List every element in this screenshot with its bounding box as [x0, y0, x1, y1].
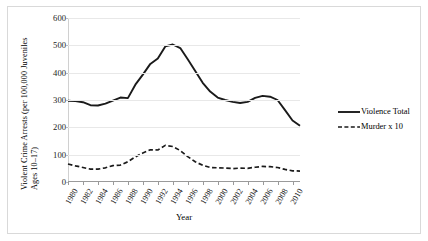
- x-tick-label: 2002: [228, 187, 244, 206]
- x-tick-label: 1980: [64, 187, 80, 206]
- x-tick-label: 2000: [213, 187, 229, 206]
- x-tick-mark: [278, 182, 279, 185]
- x-tick-label: 1992: [153, 187, 169, 206]
- x-tick-label: 1982: [79, 187, 95, 206]
- x-tick-label: 1998: [198, 187, 214, 206]
- legend-item[interactable]: Murder x 10: [338, 119, 424, 134]
- y-tick-label: 0: [36, 177, 66, 187]
- x-tick-mark: [173, 182, 174, 185]
- gridline: [68, 155, 300, 156]
- x-tick-mark: [83, 182, 84, 185]
- y-tick-label: 600: [36, 13, 66, 23]
- x-tick-label: 1988: [123, 187, 139, 206]
- chart-figure: Violent Crime Arrests (per 100,000 Juven…: [0, 0, 428, 241]
- x-tick-label: 1990: [138, 187, 154, 206]
- x-tick-label: 1994: [168, 187, 184, 206]
- y-axis-ticks: 0100200300400500600: [34, 18, 66, 182]
- x-tick-label: 2006: [258, 187, 274, 206]
- y-tick-label: 300: [36, 95, 66, 105]
- x-tick-mark: [203, 182, 204, 185]
- x-tick-mark: [113, 182, 114, 185]
- dashed-line-icon: [338, 122, 360, 132]
- legend-label: Violence Total: [361, 107, 410, 116]
- x-tick-mark: [248, 182, 249, 185]
- y-tick-label: 200: [36, 122, 66, 132]
- x-tick-label: 2004: [243, 187, 259, 206]
- x-tick-mark: [143, 182, 144, 185]
- x-tick-mark: [233, 182, 234, 185]
- series-line: [68, 45, 300, 126]
- legend-item[interactable]: Violence Total: [338, 104, 424, 119]
- gridline: [68, 100, 300, 101]
- gridline: [68, 45, 300, 46]
- gridline: [68, 73, 300, 74]
- x-tick-mark: [263, 182, 264, 185]
- y-tick-label: 100: [36, 150, 66, 160]
- x-tick-label: 1986: [109, 187, 125, 206]
- chart-legend: Violence TotalMurder x 10: [338, 104, 424, 134]
- x-tick-mark: [188, 182, 189, 185]
- x-tick-label: 2010: [288, 187, 304, 206]
- x-tick-mark: [68, 182, 69, 185]
- gridline: [68, 127, 300, 128]
- x-tick-mark: [98, 182, 99, 185]
- y-tick-label: 400: [36, 68, 66, 78]
- x-tick-mark: [293, 182, 294, 185]
- series-line: [68, 145, 300, 171]
- x-tick-label: 1984: [94, 187, 110, 206]
- x-axis-title: Year: [68, 212, 300, 222]
- y-axis-title-line1: Violent Crime Arrests (per 100,000 Juven…: [20, 37, 29, 190]
- gridline: [68, 18, 300, 19]
- x-tick-mark: [158, 182, 159, 185]
- solid-line-icon: [338, 107, 360, 117]
- x-tick-mark: [128, 182, 129, 185]
- x-tick-label: 1996: [183, 187, 199, 206]
- y-tick-label: 500: [36, 40, 66, 50]
- x-tick-label: 2008: [273, 187, 289, 206]
- plot-area: [68, 18, 300, 182]
- legend-label: Murder x 10: [361, 122, 403, 131]
- x-tick-mark: [218, 182, 219, 185]
